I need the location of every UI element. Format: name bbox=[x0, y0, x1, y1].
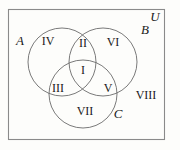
region-vii-label: VII bbox=[77, 105, 94, 117]
venn-diagram-figure: U A B C I II III IV V VI VII VIII bbox=[0, 0, 180, 150]
region-vi-label: VI bbox=[107, 36, 120, 48]
region-iii-label: III bbox=[52, 82, 64, 94]
region-viii-label: VIII bbox=[136, 89, 157, 101]
set-a-label: A bbox=[16, 34, 24, 47]
universe-label: U bbox=[150, 10, 159, 23]
region-iv-label: IV bbox=[42, 35, 55, 47]
set-b-label: B bbox=[141, 23, 149, 36]
region-i-label: I bbox=[81, 64, 85, 76]
region-ii-label: II bbox=[79, 37, 87, 49]
set-c-label: C bbox=[114, 107, 123, 120]
region-v-label: V bbox=[104, 82, 113, 94]
